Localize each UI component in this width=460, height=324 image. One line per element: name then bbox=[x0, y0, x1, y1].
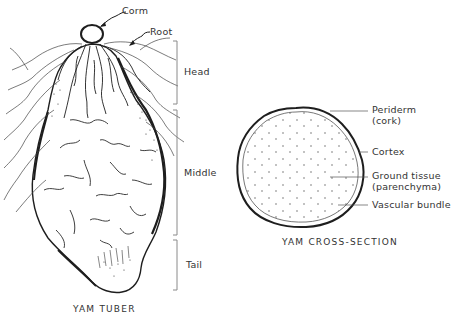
label-ground-tissue: Ground tissue (parenchyma) bbox=[372, 170, 441, 192]
yam-cross-section-drawing bbox=[237, 108, 368, 227]
label-region-tail: Tail bbox=[186, 259, 202, 270]
label-periderm: Periderm (cork) bbox=[372, 104, 416, 126]
yam-diagram: Corm Root Head Middle Tail YAM TUBER Per… bbox=[0, 0, 460, 324]
caption-yam-cross-section: YAM CROSS-SECTION bbox=[282, 237, 398, 247]
label-cortex-line1: Cortex bbox=[372, 146, 405, 157]
region-brackets bbox=[173, 41, 177, 290]
label-region-middle: Middle bbox=[184, 167, 217, 178]
bracket-tail bbox=[173, 240, 177, 290]
corm-shape bbox=[81, 25, 103, 43]
tuber-body-outline bbox=[32, 44, 165, 293]
label-vascular-bundle: Vascular bundle bbox=[372, 199, 451, 210]
bracket-middle bbox=[173, 110, 177, 235]
bracket-head bbox=[173, 41, 177, 104]
yam-tuber-drawing bbox=[4, 12, 184, 293]
label-root: Root bbox=[150, 26, 172, 37]
label-corm: Corm bbox=[122, 5, 148, 16]
label-periderm-line2: (cork) bbox=[372, 115, 416, 126]
label-periderm-line1: Periderm bbox=[372, 104, 416, 115]
label-ground-tissue-line2: (parenchyma) bbox=[372, 181, 441, 192]
label-region-head: Head bbox=[184, 66, 210, 77]
label-ground-tissue-line1: Ground tissue bbox=[372, 170, 441, 181]
diagram-drawing bbox=[0, 0, 460, 324]
label-vascular-bundle-line1: Vascular bundle bbox=[372, 199, 451, 210]
caption-yam-tuber: YAM TUBER bbox=[73, 304, 136, 314]
label-cortex: Cortex bbox=[372, 146, 405, 157]
